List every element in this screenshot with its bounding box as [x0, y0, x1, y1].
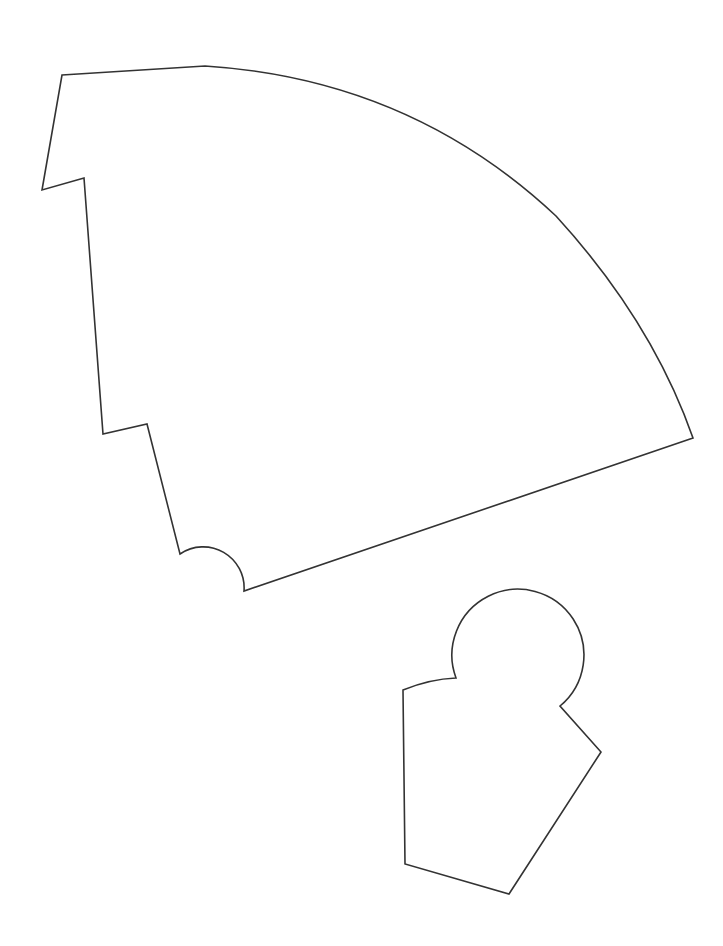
drawing-canvas — [0, 0, 723, 946]
outline-drawing-svg — [0, 0, 723, 946]
